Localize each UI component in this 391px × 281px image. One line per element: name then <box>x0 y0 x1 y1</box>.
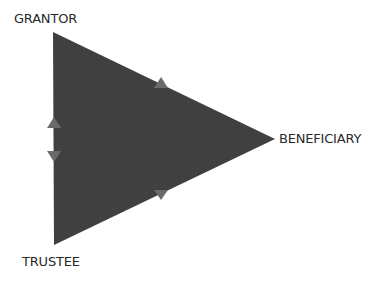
trustee-label: TRUSTEE <box>22 255 80 268</box>
beneficiary-label: BENEFICIARY <box>279 132 361 145</box>
relationship-triangle <box>53 32 275 245</box>
trust-diagram: GRANTOR TRUSTEE BENEFICIARY <box>0 0 391 281</box>
grantor-label: GRANTOR <box>14 12 77 25</box>
